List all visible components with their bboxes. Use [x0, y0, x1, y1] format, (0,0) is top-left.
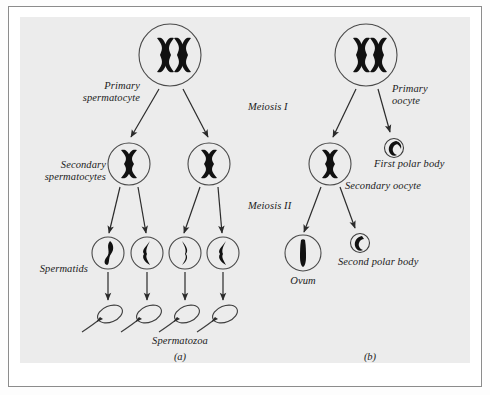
- label-secondary-oocyte: Secondary oocyte: [345, 180, 421, 192]
- label-secondary-spermatocytes: Secondaryspermatocytes: [22, 159, 106, 182]
- label-meiosis-one: Meiosis I: [248, 101, 288, 113]
- label-primary-spermatocyte: Primaryspermatocyte: [56, 80, 140, 103]
- figure-root: Primaryspermatocyte Secondaryspermatocyt…: [0, 0, 490, 395]
- panel-tag-b: (b): [340, 351, 400, 362]
- label-spermatids: Spermatids: [14, 263, 88, 275]
- label-primary-oocyte: Primaryoocyte: [392, 83, 462, 106]
- panel-tag-a: (a): [140, 351, 220, 362]
- label-meiosis-two: Meiosis II: [248, 200, 291, 212]
- label-first-polar-body: First polar body: [374, 158, 444, 170]
- label-ovum: Ovum: [275, 275, 331, 287]
- label-second-polar-body: Second polar body: [338, 256, 418, 268]
- label-spermatozoa: Spermatozoa: [125, 335, 235, 347]
